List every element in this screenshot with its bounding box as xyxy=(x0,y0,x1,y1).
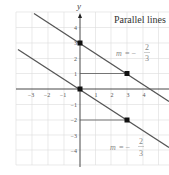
svg-text:m: m xyxy=(116,49,122,58)
point-0-0 xyxy=(78,87,83,92)
y-axis-arrow-icon xyxy=(78,13,82,18)
x-tick-label: −3 xyxy=(28,92,34,98)
parallel-lines-chart: −3 −2 −1 1 2 3 4 4 3 2 1 −1 −2 −3 −4 y P… xyxy=(0,0,169,175)
x-tick-label: 4 xyxy=(143,92,146,98)
y-tick-label: 2 xyxy=(74,56,77,62)
point-3-m2 xyxy=(125,118,130,123)
y-axis-label: y xyxy=(76,1,81,11)
svg-text:= −: = − xyxy=(125,49,137,58)
point-3-1 xyxy=(125,71,130,76)
svg-text:= −: = − xyxy=(119,143,131,152)
x-tick-label: −1 xyxy=(60,92,66,98)
y-tick-label: −2 xyxy=(71,117,77,123)
x-tick-label: 2 xyxy=(111,92,114,98)
y-tick-label: 4 xyxy=(74,25,77,31)
x-tick-label: 1 xyxy=(95,92,98,98)
lower-line xyxy=(18,50,169,148)
point-0-3 xyxy=(78,41,83,46)
y-tick-label: 3 xyxy=(74,40,77,46)
svg-text:m: m xyxy=(110,143,116,152)
y-tick-label: −4 xyxy=(71,148,77,154)
y-tick-label: 1 xyxy=(74,71,77,77)
x-tick-label: 3 xyxy=(127,92,130,98)
svg-text:2: 2 xyxy=(145,43,149,52)
x-tick-label: −2 xyxy=(44,92,50,98)
chart-title: Parallel lines xyxy=(114,14,166,25)
svg-text:2: 2 xyxy=(139,137,143,146)
y-tick-label: −3 xyxy=(71,133,77,139)
y-tick-label: −1 xyxy=(71,102,77,108)
svg-text:3: 3 xyxy=(145,54,149,63)
svg-text:3: 3 xyxy=(139,149,143,158)
grid xyxy=(16,12,169,165)
slope-label-upper: m = − 2 3 xyxy=(116,43,150,63)
